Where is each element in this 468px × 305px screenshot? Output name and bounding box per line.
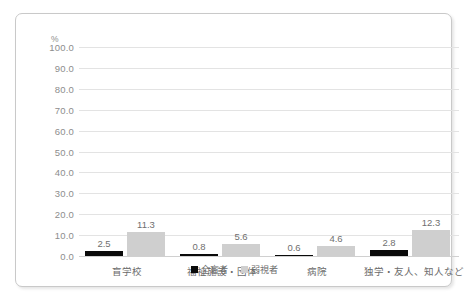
bar-value-label: 0.6 xyxy=(275,242,313,253)
bar-blind xyxy=(275,255,313,257)
y-axis-tick-label: 20.0 xyxy=(55,209,74,220)
bars: 0.85.6 xyxy=(174,47,269,256)
bar-group: 2.812.3独学・友人、知人など xyxy=(364,47,459,256)
bar-lowvision xyxy=(222,244,260,256)
legend-label: 弱視者 xyxy=(251,263,278,276)
bar-group: 2.511.3盲学校 xyxy=(79,47,174,256)
bar-lowvision xyxy=(317,246,355,256)
legend-entry: 弱視者 xyxy=(241,263,278,276)
bars: 2.812.3 xyxy=(364,47,459,256)
bar-value-label: 0.8 xyxy=(180,241,218,252)
bar-value-label: 4.6 xyxy=(317,233,355,244)
bar-lowvision xyxy=(412,230,450,256)
y-axis-tick-label: 40.0 xyxy=(55,167,74,178)
chart-frame: % 100.090.080.070.060.050.040.030.020.01… xyxy=(15,13,452,287)
y-axis-tick-label: 80.0 xyxy=(55,83,74,94)
plot-area: 100.090.080.070.060.050.040.030.020.010.… xyxy=(79,47,459,256)
chart-screenshot: % 100.090.080.070.060.050.040.030.020.01… xyxy=(0,0,468,305)
bar-value-label: 5.6 xyxy=(222,231,260,242)
bar-group: 0.64.6病院 xyxy=(269,47,364,256)
y-axis-tick-label: 0.0 xyxy=(60,251,74,262)
bar-blind xyxy=(180,254,218,256)
legend-swatch-icon xyxy=(191,266,198,273)
y-axis-tick-label: 10.0 xyxy=(55,230,74,241)
legend-entry: 全盲者 xyxy=(191,263,228,276)
y-axis-tick-label: 60.0 xyxy=(55,125,74,136)
bar-value-label: 12.3 xyxy=(412,217,450,228)
y-axis-tick-label: 90.0 xyxy=(55,62,74,73)
bar-value-label: 2.8 xyxy=(370,237,408,248)
legend-label: 全盲者 xyxy=(201,263,228,276)
bar-blind xyxy=(85,251,123,256)
bar-value-label: 2.5 xyxy=(85,238,123,249)
bar-value-label: 11.3 xyxy=(127,219,165,230)
bars: 2.511.3 xyxy=(79,47,174,256)
bar-lowvision xyxy=(127,232,165,256)
y-axis-tick-label: 70.0 xyxy=(55,104,74,115)
bars: 0.64.6 xyxy=(269,47,364,256)
y-axis-tick-label: 100.0 xyxy=(49,42,74,53)
legend-swatch-icon xyxy=(241,266,248,273)
chart-legend: 全盲者弱視者 xyxy=(16,263,453,276)
gridline xyxy=(79,256,459,257)
bar-group: 0.85.6福祉施設・団体 xyxy=(174,47,269,256)
bar-blind xyxy=(370,250,408,256)
y-axis-tick-label: 50.0 xyxy=(55,146,74,157)
y-axis-tick-label: 30.0 xyxy=(55,188,74,199)
